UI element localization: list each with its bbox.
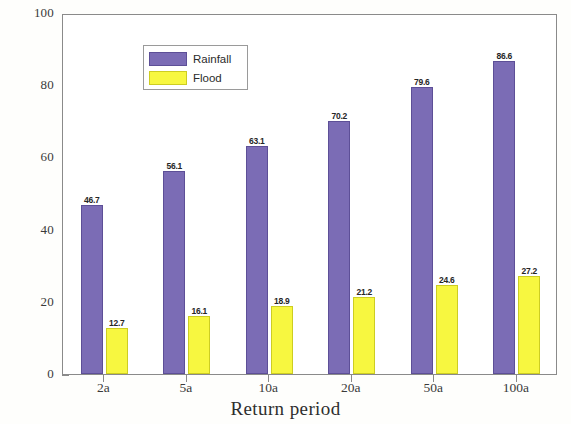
- bar-value-label: 56.1: [154, 161, 194, 171]
- legend-item-flood: Flood: [149, 69, 242, 87]
- x-tick-label: 5a: [151, 380, 221, 396]
- chart-figure: Depth (mm) 020406080100 46.712.756.116.1…: [0, 0, 571, 424]
- bar-value-label: 86.6: [484, 51, 524, 61]
- bar-value-label: 79.6: [402, 77, 442, 87]
- chart-legend: Rainfall Flood: [143, 45, 248, 90]
- x-tick-label: 100a: [481, 380, 551, 396]
- legend-label-rainfall: Rainfall: [193, 53, 231, 65]
- bar-value-label: 63.1: [237, 136, 277, 146]
- bar-flood-10a: [271, 306, 293, 374]
- bar-value-label: 70.2: [319, 111, 359, 121]
- bar-rainfall-50a: [411, 87, 433, 374]
- plot-area: 46.712.756.116.163.118.970.221.279.624.6…: [62, 14, 557, 375]
- x-tick-label: 10a: [233, 380, 303, 396]
- bar-rainfall-100a: [493, 61, 515, 374]
- bar-flood-50a: [436, 285, 458, 374]
- y-tick-mark: [62, 375, 69, 376]
- y-tick-label: 20: [14, 294, 54, 310]
- bar-flood-2a: [106, 328, 128, 374]
- bar-value-label: 16.1: [179, 306, 219, 316]
- bar-value-label: 24.6: [427, 275, 467, 285]
- x-tick-label: 2a: [68, 380, 138, 396]
- y-tick-label: 80: [14, 77, 54, 93]
- bar-value-label: 18.9: [262, 296, 302, 306]
- legend-label-flood: Flood: [193, 72, 222, 84]
- y-tick-label: 60: [14, 149, 54, 165]
- bar-rainfall-5a: [163, 171, 185, 374]
- bar-value-label: 27.2: [509, 266, 549, 276]
- bar-flood-20a: [353, 297, 375, 374]
- bar-rainfall-2a: [81, 205, 103, 374]
- bar-value-label: 46.7: [72, 195, 112, 205]
- legend-swatch-rainfall: [149, 52, 187, 66]
- legend-item-rainfall: Rainfall: [149, 50, 242, 68]
- bar-rainfall-10a: [246, 146, 268, 374]
- y-tick-label: 100: [14, 5, 54, 21]
- bar-flood-100a: [518, 276, 540, 374]
- x-tick-label: 20a: [316, 380, 386, 396]
- bar-value-label: 12.7: [97, 318, 137, 328]
- x-axis-title: Return period: [0, 398, 571, 420]
- legend-swatch-flood: [149, 71, 187, 85]
- y-tick-label: 40: [14, 222, 54, 238]
- bar-value-label: 21.2: [344, 287, 384, 297]
- bar-rainfall-20a: [328, 121, 350, 374]
- x-tick-label: 50a: [398, 380, 468, 396]
- y-tick-label: 0: [14, 366, 54, 382]
- bar-flood-5a: [188, 316, 210, 374]
